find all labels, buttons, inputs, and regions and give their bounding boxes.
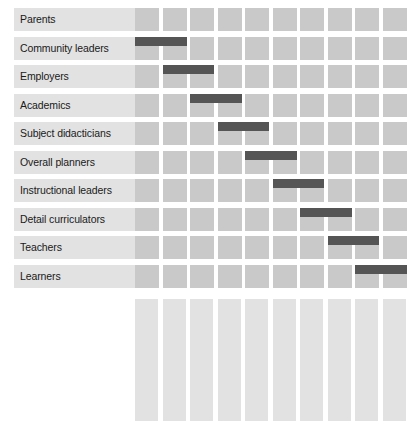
matrix-cell — [273, 65, 297, 88]
influence-bar-community-leaders — [135, 37, 187, 46]
influence-bar-employers — [163, 65, 215, 74]
matrix-cell — [190, 151, 214, 174]
matrix-cell — [190, 208, 214, 231]
matrix-cell — [355, 37, 379, 60]
column-label-detail-curriculators: Detail curriculators — [328, 299, 351, 421]
matrix-cell — [190, 37, 214, 60]
row-label-overall-planners: Overall planners — [14, 151, 135, 174]
matrix-cell — [300, 236, 324, 259]
matrix-cell — [383, 208, 407, 231]
influence-bar-detail-curriculators — [300, 208, 352, 217]
matrix-cell — [355, 208, 379, 231]
row-label-academics: Academics — [14, 94, 135, 117]
matrix-cell — [300, 8, 324, 31]
matrix-cell — [300, 265, 324, 288]
matrix-cell — [300, 94, 324, 117]
row-label-text: Instructional leaders — [20, 185, 112, 196]
matrix-cell — [218, 179, 242, 202]
matrix-cell — [135, 265, 159, 288]
column-label-teachers: Teachers — [355, 299, 378, 421]
matrix-cell — [245, 208, 269, 231]
row-label-text: Parents — [20, 14, 56, 25]
column-label-overall-planners: Overall planners — [273, 299, 296, 421]
matrix-cell — [163, 8, 187, 31]
matrix-cell — [245, 65, 269, 88]
matrix-cell — [163, 179, 187, 202]
influence-matrix-diagram: ParentsCommunity leadersEmployersAcademi… — [0, 0, 419, 431]
matrix-cell — [355, 8, 379, 31]
column-label-employers: Employers — [190, 299, 213, 421]
matrix-cell — [135, 208, 159, 231]
row-label-instructional-leaders: Instructional leaders — [14, 179, 135, 202]
matrix-cell — [273, 236, 297, 259]
influence-bar-instructional-leaders — [273, 179, 325, 188]
matrix-cell — [135, 151, 159, 174]
matrix-cell — [383, 94, 407, 117]
row-label-text: Academics — [20, 100, 70, 111]
matrix-cell — [355, 151, 379, 174]
matrix-cell — [383, 65, 407, 88]
row-label-text: Employers — [20, 71, 69, 82]
matrix-cell — [163, 122, 187, 145]
matrix-cell — [163, 94, 187, 117]
matrix-cell — [135, 179, 159, 202]
influence-bar-learners — [355, 265, 407, 274]
row-label-parents: Parents — [14, 8, 135, 31]
row-label-community-leaders: Community leaders — [14, 37, 135, 60]
matrix-cell — [163, 151, 187, 174]
matrix-cell — [300, 37, 324, 60]
row-label-text: Teachers — [20, 242, 62, 253]
influence-bar-academics — [190, 94, 242, 103]
matrix-cell — [163, 265, 187, 288]
matrix-cell — [163, 208, 187, 231]
matrix-cell — [383, 37, 407, 60]
matrix-cell — [355, 94, 379, 117]
matrix-cell — [300, 122, 324, 145]
row-label-employers: Employers — [14, 65, 135, 88]
row-label-teachers: Teachers — [14, 236, 135, 259]
matrix-cell — [135, 122, 159, 145]
matrix-cell — [135, 65, 159, 88]
matrix-cell — [273, 94, 297, 117]
matrix-cell — [190, 236, 214, 259]
row-label-text: Overall planners — [20, 157, 95, 168]
matrix-cell — [218, 65, 242, 88]
matrix-cell — [245, 179, 269, 202]
matrix-cell — [218, 265, 242, 288]
matrix-cell — [273, 122, 297, 145]
column-label-academics: Academics — [218, 299, 241, 421]
matrix-cell — [218, 37, 242, 60]
matrix-cell — [245, 236, 269, 259]
matrix-cell — [273, 208, 297, 231]
matrix-cell — [355, 122, 379, 145]
matrix-cell — [355, 65, 379, 88]
matrix-cell — [218, 8, 242, 31]
matrix-cell — [135, 236, 159, 259]
matrix-cell — [135, 94, 159, 117]
matrix-cell — [190, 179, 214, 202]
matrix-cell — [245, 8, 269, 31]
matrix-cell — [190, 8, 214, 31]
column-label-parents: Parents — [135, 299, 158, 421]
matrix-cell — [328, 179, 352, 202]
matrix-cell — [383, 8, 407, 31]
influence-bar-subject-didacticians — [218, 122, 270, 131]
matrix-cell — [328, 8, 352, 31]
matrix-cell — [218, 208, 242, 231]
matrix-cell — [328, 265, 352, 288]
column-label-learners: Learners — [383, 299, 406, 421]
column-label-subject-didacticians: Subject didacticians — [245, 299, 268, 421]
matrix-cell — [190, 122, 214, 145]
row-label-text: Detail curriculators — [20, 214, 105, 225]
row-label-text: Learners — [20, 271, 61, 282]
matrix-cell — [383, 179, 407, 202]
matrix-cell — [190, 265, 214, 288]
matrix-cell — [355, 179, 379, 202]
influence-bar-overall-planners — [245, 151, 297, 160]
column-label-instructional-leaders: Instructional leaders — [300, 299, 323, 421]
row-label-text: Subject didacticians — [20, 128, 111, 139]
matrix-cell — [383, 236, 407, 259]
matrix-cell — [135, 8, 159, 31]
row-label-learners: Learners — [14, 265, 135, 288]
column-label-community-leaders: Community leaders — [163, 299, 186, 421]
